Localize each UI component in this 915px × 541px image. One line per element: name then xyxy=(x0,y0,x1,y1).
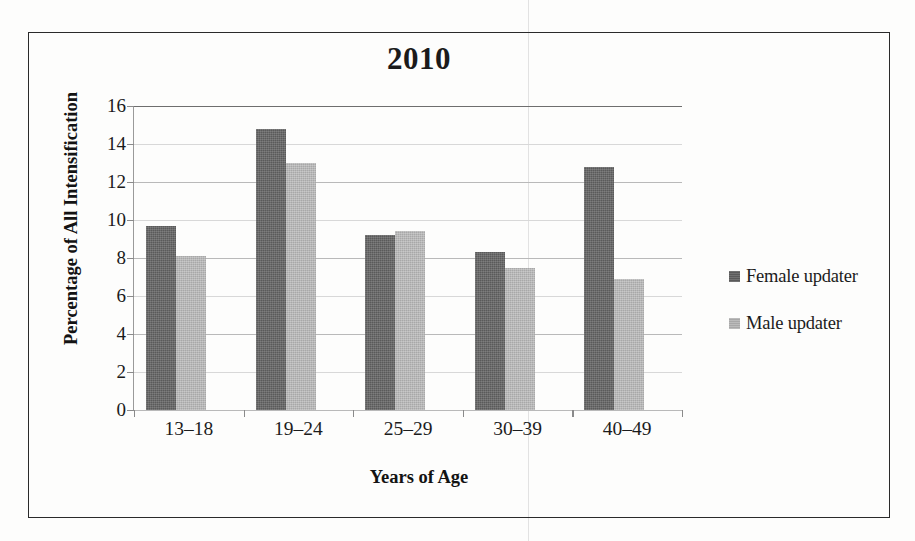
bar-female xyxy=(256,129,286,410)
x-tick-label: 40–49 xyxy=(572,418,682,440)
y-tick-label: 14 xyxy=(80,133,126,155)
y-tick-label: 10 xyxy=(80,209,126,231)
bar-group xyxy=(353,106,463,410)
x-tick-label: 19–24 xyxy=(243,418,353,440)
chart-title: 2010 xyxy=(129,41,709,77)
legend-swatch-icon xyxy=(729,271,740,282)
x-tick-mark xyxy=(463,410,464,417)
y-tick-label: 16 xyxy=(80,95,126,117)
bar-male xyxy=(505,268,535,411)
legend-swatch-icon xyxy=(729,318,740,329)
y-tick-label: 0 xyxy=(80,399,126,421)
legend: Female updaterMale updater xyxy=(729,266,904,360)
bar-male xyxy=(614,279,644,410)
legend-item: Female updater xyxy=(729,266,904,287)
y-tick-mark xyxy=(127,372,134,373)
figure-frame: 2010 Percentage of All Intensification Y… xyxy=(28,32,890,518)
plot-area: 1614121086420 13–1819–2425–2930–3940–49 xyxy=(134,106,682,410)
x-axis-title: Years of Age xyxy=(134,467,704,488)
x-tick-mark xyxy=(682,410,683,417)
bar-female xyxy=(146,226,176,410)
gridline xyxy=(134,410,682,411)
x-tick-mark xyxy=(134,410,135,417)
y-tick-mark xyxy=(127,182,134,183)
bar-male xyxy=(176,256,206,410)
y-tick-mark xyxy=(127,220,134,221)
y-tick-label: 6 xyxy=(80,285,126,307)
y-tick-mark xyxy=(127,144,134,145)
bar-group xyxy=(134,106,244,410)
y-tick-mark xyxy=(127,258,134,259)
x-tick-label: 25–29 xyxy=(353,418,463,440)
bar-female xyxy=(365,235,395,410)
legend-label: Male updater xyxy=(746,313,842,334)
y-tick-label: 4 xyxy=(80,323,126,345)
x-tick-label: 13–18 xyxy=(134,418,244,440)
bar-group xyxy=(572,106,682,410)
bars-layer xyxy=(134,106,682,410)
bar-male xyxy=(395,231,425,410)
y-tick-label: 2 xyxy=(80,361,126,383)
bar-female xyxy=(584,167,614,410)
y-tick-mark xyxy=(127,410,134,411)
x-tick-mark xyxy=(353,410,354,417)
y-tick-mark xyxy=(127,296,134,297)
bar-group xyxy=(244,106,354,410)
scanned-page: 2010 Percentage of All Intensification Y… xyxy=(0,0,915,541)
y-tick-mark xyxy=(127,106,134,107)
y-tick-mark xyxy=(127,334,134,335)
bar-male xyxy=(286,163,316,410)
legend-label: Female updater xyxy=(746,266,858,287)
chart-title-container: 2010 xyxy=(129,33,709,95)
bar-female xyxy=(475,252,505,410)
x-tick-mark xyxy=(244,410,245,417)
bar-group xyxy=(463,106,573,410)
legend-item: Male updater xyxy=(729,313,904,334)
x-tick-label: 30–39 xyxy=(463,418,573,440)
y-tick-label: 12 xyxy=(80,171,126,193)
y-axis-title: Percentage of All Intensification xyxy=(61,59,82,379)
x-tick-mark xyxy=(572,410,573,417)
y-tick-label: 8 xyxy=(80,247,126,269)
